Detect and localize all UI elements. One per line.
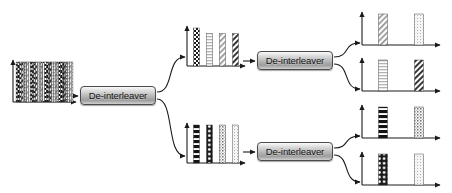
bar xyxy=(379,107,388,138)
bar xyxy=(50,62,52,102)
bar xyxy=(233,125,239,163)
bar xyxy=(71,62,73,102)
conn-box3-to-out4 xyxy=(334,155,360,182)
plot-out-3 xyxy=(362,105,440,138)
bar xyxy=(64,62,66,102)
bar xyxy=(68,62,70,102)
bar xyxy=(194,28,200,66)
bar xyxy=(25,62,27,102)
bar xyxy=(415,154,424,185)
bar xyxy=(220,34,226,66)
bar xyxy=(220,125,226,163)
deinterleaver-label: De-interleaver xyxy=(89,91,147,101)
bar xyxy=(379,154,388,185)
bar xyxy=(61,62,63,102)
bar xyxy=(52,62,54,102)
deinterleaver-label: De-interleaver xyxy=(266,56,324,66)
bar xyxy=(27,62,29,102)
bar xyxy=(59,62,61,102)
box-stage2-bottom[interactable]: De-interleaver xyxy=(257,142,333,161)
bar xyxy=(207,125,213,163)
bar xyxy=(62,62,64,102)
conn-box1-to-upper xyxy=(157,57,185,92)
bar xyxy=(23,62,25,102)
bar xyxy=(233,34,239,66)
bar xyxy=(379,60,388,91)
bar xyxy=(37,62,39,102)
plot-stage2-top xyxy=(187,26,245,66)
bar xyxy=(39,62,41,102)
box-stage2-top[interactable]: De-interleaver xyxy=(257,51,333,70)
bar xyxy=(41,62,43,102)
bar xyxy=(415,14,424,45)
bar xyxy=(54,62,56,102)
bar xyxy=(16,62,18,102)
bar xyxy=(29,62,31,102)
bar xyxy=(55,62,57,102)
bar xyxy=(46,62,48,102)
conn-box2-to-out1 xyxy=(334,43,360,57)
bar xyxy=(34,62,36,102)
bar xyxy=(45,62,47,102)
box-stage1[interactable]: De-interleaver xyxy=(80,86,156,105)
bar xyxy=(21,62,23,102)
bar xyxy=(36,62,38,102)
bar xyxy=(57,62,59,102)
bar xyxy=(20,62,22,102)
plot-layer xyxy=(13,12,440,185)
bar xyxy=(30,62,32,102)
bar xyxy=(415,107,424,138)
plot-out-2 xyxy=(362,58,440,91)
plot-input xyxy=(13,60,76,102)
bar xyxy=(66,62,68,102)
plot-out-4 xyxy=(362,152,440,185)
bar xyxy=(379,14,388,45)
conn-box2-to-out2 xyxy=(334,64,360,89)
diagram-canvas: De-interleaverDe-interleaverDe-interleav… xyxy=(0,0,452,193)
diagram-svg xyxy=(0,0,452,193)
bar xyxy=(48,62,50,102)
plot-stage2-bottom xyxy=(187,123,245,163)
bar xyxy=(18,62,20,102)
deinterleaver-label: De-interleaver xyxy=(266,147,324,157)
bar xyxy=(207,34,213,66)
bar xyxy=(32,62,34,102)
bar xyxy=(70,62,72,102)
conn-box1-to-lower xyxy=(157,99,185,156)
conn-box3-to-out3 xyxy=(334,136,360,148)
bar xyxy=(43,62,45,102)
plot-out-1 xyxy=(362,12,440,45)
bar xyxy=(194,125,200,163)
bar xyxy=(415,60,424,91)
